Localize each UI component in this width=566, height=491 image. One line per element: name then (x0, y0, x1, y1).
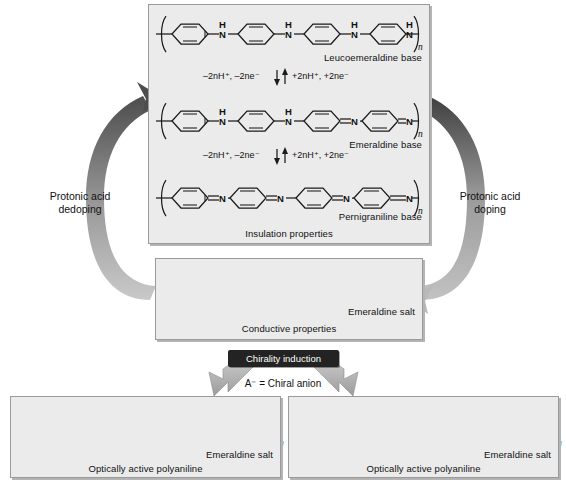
svg-text:n: n (418, 42, 423, 52)
svg-text:N: N (219, 29, 226, 40)
svg-text:N: N (219, 193, 226, 204)
svg-text:H: H (219, 106, 226, 117)
pernigraniline-base-label: Pernigraniline base (250, 211, 422, 222)
doping-label-line2: doping (474, 203, 506, 215)
svg-text:N: N (285, 116, 292, 127)
svg-text:H: H (219, 19, 226, 30)
svg-text:N: N (285, 29, 292, 40)
redox-step-2-right: +2nH⁺, +2ne⁻ (292, 150, 349, 160)
leucoemeraldine-structure: N H N H N H (156, 16, 423, 52)
leucoemeraldine-base-label: Leucoemeraldine base (250, 52, 422, 63)
optically-active-left-footer: Optically active polyaniline (10, 463, 281, 474)
svg-text:N: N (406, 29, 413, 40)
redox-step-2-left: –2nH⁺, –2ne⁻ (203, 150, 260, 160)
svg-text:H: H (351, 19, 358, 30)
svg-text:H: H (285, 106, 292, 117)
svg-text:N: N (219, 116, 226, 127)
redox-step-1-right: +2nH⁺, +2ne⁻ (292, 71, 349, 81)
svg-text:N: N (351, 29, 358, 40)
insulation-properties-label: Insulation properties (148, 228, 430, 239)
emeraldine-salt-label: Emeraldine salt (250, 306, 415, 317)
dedoping-label: Protonic acid dedoping (20, 190, 140, 216)
conductive-properties-label: Conductive properties (155, 323, 423, 334)
optically-active-left-salt-label: Emeraldine salt (110, 449, 273, 460)
svg-text:N: N (406, 193, 413, 204)
chiral-anion-note: A⁻ = Chiral anion (0, 378, 566, 389)
chirality-induction-chip[interactable]: Chirality induction (228, 350, 339, 367)
optically-active-right-footer: Optically active polyaniline (288, 463, 559, 474)
optically-active-right-salt-label: Emeraldine salt (388, 449, 551, 460)
svg-text:N: N (351, 116, 358, 127)
diagram-canvas: N H N H N H (0, 0, 566, 491)
svg-text:N: N (406, 116, 413, 127)
svg-text:N: N (343, 193, 350, 204)
emeraldine-base-label: Emeraldine base (250, 139, 422, 150)
doping-label-line1: Protonic acid (460, 190, 521, 202)
dedoping-label-line1: Protonic acid (50, 190, 111, 202)
redox-arrow-1 (274, 68, 288, 86)
redox-step-1-left: –2nH⁺, –2ne⁻ (203, 71, 260, 81)
emeraldine-base-structure: N H N H N (156, 103, 423, 139)
svg-text:N: N (277, 193, 284, 204)
doping-label: Protonic acid doping (430, 190, 550, 216)
svg-text:H: H (406, 19, 413, 30)
svg-text:H: H (285, 19, 292, 30)
svg-text:n: n (418, 129, 423, 139)
dedoping-label-line2: dedoping (58, 203, 101, 215)
